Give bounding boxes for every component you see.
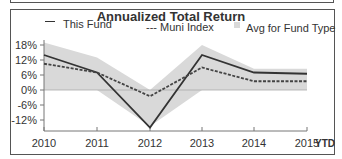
y-tick-label: 12%: [15, 54, 37, 66]
y-tick-label: -12%: [11, 114, 37, 126]
x-tick-label: 2012: [138, 137, 162, 149]
x-tick-label: 2013: [190, 137, 214, 149]
y-tick-label: 6%: [21, 69, 37, 81]
x-tick-label: 2011: [85, 137, 109, 149]
x-tick-label: 2010: [32, 137, 56, 149]
y-tick-label: 0%: [21, 84, 37, 96]
y-tick-label: -6%: [17, 99, 37, 111]
x-tick-label: 2014: [242, 137, 266, 149]
ytd-label: YTD: [315, 138, 335, 149]
y-tick-label: 18%: [15, 39, 37, 51]
avg-fund-type-band: [44, 43, 307, 127]
chart-plot: 18%12%6%0%-6%-12%20102011201220132014201…: [0, 0, 342, 159]
